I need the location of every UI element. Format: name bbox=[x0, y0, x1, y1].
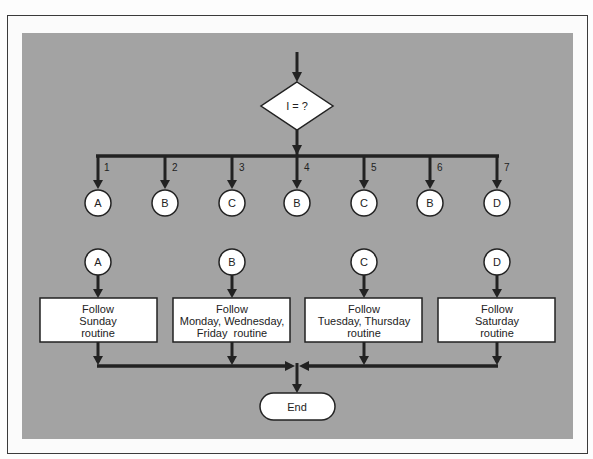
connector-label: D bbox=[493, 256, 501, 268]
terminal-label: End bbox=[287, 401, 307, 413]
process-label-line: Saturday bbox=[475, 315, 520, 327]
connector-label: B bbox=[293, 197, 300, 209]
decision-out-arrow bbox=[292, 130, 302, 156]
end-arrow bbox=[292, 363, 302, 393]
branch-6: 6 B bbox=[417, 156, 443, 216]
routine-d: D Follow Saturday routine bbox=[438, 249, 555, 365]
connector-label: C bbox=[360, 256, 368, 268]
branch-number: 1 bbox=[104, 162, 110, 173]
branch-7: 7 D bbox=[484, 156, 510, 216]
branch-5: 5 C bbox=[351, 156, 377, 216]
process-label-line: Monday, Wednesday, bbox=[180, 315, 285, 327]
process-label-line: routine bbox=[480, 327, 514, 339]
connector-label: A bbox=[94, 197, 102, 209]
branch-2: 2 B bbox=[152, 156, 178, 216]
process-label-line: Friday routine bbox=[197, 327, 267, 339]
process-label-line: Tuesday, Thursday bbox=[318, 315, 411, 327]
branch-3: 3 C bbox=[219, 156, 245, 216]
connector-label: C bbox=[228, 197, 236, 209]
process-label-line: routine bbox=[81, 327, 115, 339]
connector-label: B bbox=[228, 256, 235, 268]
process-label-line: Follow bbox=[216, 303, 248, 315]
process-label-line: routine bbox=[347, 327, 381, 339]
decision-label: I = ? bbox=[286, 100, 308, 112]
connector-label: D bbox=[493, 197, 501, 209]
branch-number: 6 bbox=[437, 162, 443, 173]
process-label-line: Follow bbox=[348, 303, 380, 315]
branch-number: 7 bbox=[504, 162, 510, 173]
connector-label: C bbox=[360, 197, 368, 209]
connector-label: A bbox=[94, 256, 102, 268]
terminal-end: End bbox=[260, 393, 335, 420]
routine-a: A Follow Sunday routine bbox=[40, 249, 157, 365]
branch-number: 5 bbox=[371, 162, 377, 173]
connector-label: B bbox=[161, 197, 168, 209]
routine-c: C Follow Tuesday, Thursday routine bbox=[305, 249, 422, 365]
connector-label: B bbox=[426, 197, 433, 209]
branch-number: 4 bbox=[304, 162, 310, 173]
routine-b: B Follow Monday, Wednesday, Friday routi… bbox=[173, 249, 290, 365]
flowchart: I = ? 1 A 2 B 3 C 4 B 5 bbox=[0, 0, 593, 459]
entry-arrow bbox=[292, 52, 302, 82]
process-label-line: Sunday bbox=[79, 315, 117, 327]
decision-node: I = ? bbox=[261, 82, 333, 130]
branch-number: 3 bbox=[239, 162, 245, 173]
process-label-line: Follow bbox=[481, 303, 513, 315]
branch-number: 2 bbox=[172, 162, 178, 173]
process-label-line: Follow bbox=[82, 303, 114, 315]
branch-4: 4 B bbox=[284, 156, 310, 216]
branch-1: 1 A bbox=[85, 156, 111, 216]
